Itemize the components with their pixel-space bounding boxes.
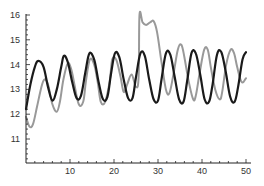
x-tick-label: 10 xyxy=(65,166,75,176)
line-chart: 111213141516 1020304050 xyxy=(0,0,264,186)
series-gray-line xyxy=(26,12,246,128)
axes: 111213141516 1020304050 xyxy=(10,10,251,176)
y-tick-label: 12 xyxy=(10,109,20,119)
x-ticks: 1020304050 xyxy=(35,159,251,176)
x-tick-label: 20 xyxy=(109,166,119,176)
series-layer xyxy=(26,12,246,128)
y-ticks: 111213141516 xyxy=(10,10,30,159)
x-tick-label: 50 xyxy=(241,166,251,176)
y-tick-label: 11 xyxy=(11,134,20,144)
y-tick-label: 15 xyxy=(10,35,20,45)
series-black-line xyxy=(26,50,246,109)
y-tick-label: 14 xyxy=(10,60,20,70)
x-tick-label: 40 xyxy=(197,166,207,176)
y-tick-label: 16 xyxy=(10,10,20,20)
y-tick-label: 13 xyxy=(10,84,20,94)
x-tick-label: 30 xyxy=(153,166,163,176)
